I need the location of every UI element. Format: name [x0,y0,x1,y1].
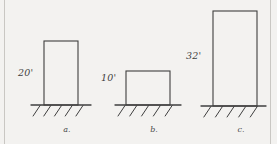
ground-hatch-b-2 [130,106,137,117]
figure-drawing [0,0,277,144]
ground-hatch-b-5 [165,106,172,117]
wall-rectangle-b [126,71,170,105]
figure-caption-b: b. [132,126,176,134]
ground-hatch-b-3 [142,106,149,117]
ground-hatch-b-1 [118,106,125,117]
ground-hatch-a-3 [55,106,62,117]
dimension-label-c: 32' [186,51,201,61]
ground-hatch-a-5 [76,106,83,117]
ground-hatch-a-2 [44,106,51,117]
ground-hatch-c-5 [250,107,257,118]
wall-rectangle-a [44,41,78,105]
figure-caption-c: c. [219,126,263,134]
dimension-label-a: 20' [18,68,33,78]
ground-hatch-a-1 [33,106,40,117]
ground-hatch-c-4 [239,107,246,118]
ground-hatch-c-1 [204,107,211,118]
wall-rectangle-c [213,11,257,106]
figure-caption-a: a. [50,126,84,134]
ground-hatch-b-4 [153,106,160,117]
dimension-label-b: 10' [101,73,116,83]
ground-hatch-c-2 [215,107,222,118]
figure-sheet: 20' a. 10' b. 32' c. [0,0,277,144]
ground-hatch-c-3 [227,107,234,118]
ground-hatch-a-4 [65,106,72,117]
